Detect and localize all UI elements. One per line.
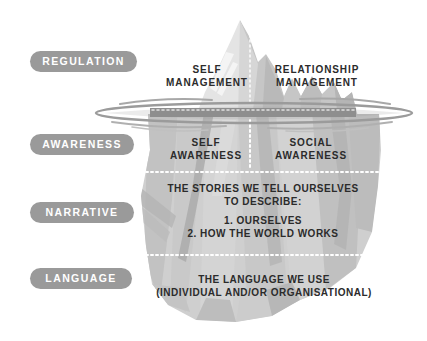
category-pill-regulation-label: REGULATION <box>42 55 125 67</box>
category-pill-narrative[interactable]: NARRATIVE <box>30 202 134 223</box>
category-pill-narrative-label: NARRATIVE <box>45 206 118 218</box>
narrative-item1: 1. OURSELVES <box>140 215 386 228</box>
label-relationship-management-line1: RELATIONSHIP <box>255 64 379 77</box>
narrative-spacer <box>140 208 386 215</box>
label-self-management-line1: SELF <box>162 64 252 77</box>
language-line2: (INDIVIDUAL AND/OR ORGANISATIONAL) <box>128 287 400 300</box>
label-self-management-line2: MANAGEMENT <box>162 77 252 90</box>
label-self-management: SELF MANAGEMENT <box>162 64 252 89</box>
label-relationship-management-line2: MANAGEMENT <box>255 77 379 90</box>
category-pill-awareness[interactable]: AWARENESS <box>30 134 134 155</box>
narrative-item2: 2. HOW THE WORLD WORKS <box>140 228 386 241</box>
label-self-awareness-line2: AWARENESS <box>162 150 250 163</box>
language-line1: THE LANGUAGE WE USE <box>128 274 400 287</box>
label-social-awareness: SOCIAL AWARENESS <box>256 137 366 162</box>
narrative-line1: THE STORIES WE TELL OURSELVES <box>140 183 386 196</box>
label-self-awareness: SELF AWARENESS <box>162 137 250 162</box>
label-language-band: THE LANGUAGE WE USE (INDIVIDUAL AND/OR O… <box>128 274 400 299</box>
label-social-awareness-line1: SOCIAL <box>256 137 366 150</box>
label-relationship-management: RELATIONSHIP MANAGEMENT <box>255 64 379 89</box>
category-pill-language-label: LANGUAGE <box>45 272 116 284</box>
iceberg-diagram: REGULATION AWARENESS NARRATIVE LANGUAGE … <box>0 0 427 341</box>
category-pill-awareness-label: AWARENESS <box>42 138 122 150</box>
label-self-awareness-line1: SELF <box>162 137 250 150</box>
category-pill-language[interactable]: LANGUAGE <box>30 268 132 289</box>
category-pill-regulation[interactable]: REGULATION <box>30 51 137 72</box>
label-social-awareness-line2: AWARENESS <box>256 150 366 163</box>
narrative-line2: TO DESCRIBE: <box>140 196 386 209</box>
label-narrative-band: THE STORIES WE TELL OURSELVES TO DESCRIB… <box>140 183 386 240</box>
